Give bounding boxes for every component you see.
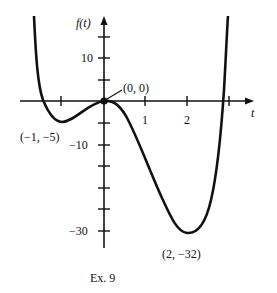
caption: Ex. 9 [90,271,115,285]
y-tick-label-10: 10 [81,51,93,65]
point-label-local-min: (−1, −5) [20,130,60,144]
y-tick-label-neg30: −30 [69,224,88,238]
function-graph: f(t) t 10 −10 −30 1 2 (−1, −5) (0, 0) (2… [0,0,277,293]
x-tick-label-2: 2 [184,113,190,127]
point-label-origin: (0, 0) [123,81,149,95]
x-axis-arrow-icon [245,98,254,105]
x-axis-label: t [251,106,255,120]
function-curve [34,16,228,233]
origin-leader-line [107,90,122,99]
x-tick-label-1: 1 [142,113,148,127]
y-axis-arrow-icon [101,16,108,25]
origin-point [100,97,107,104]
y-tick-label-neg10: −10 [69,138,88,152]
point-label-global-min: (2, −32) [162,247,201,261]
y-axis-label: f(t) [76,16,91,30]
